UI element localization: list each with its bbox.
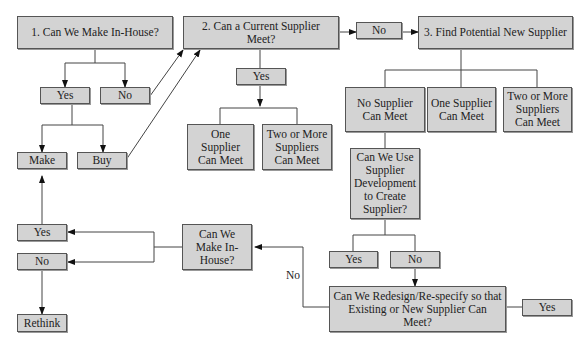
node-q2-yes: Yes (236, 68, 286, 85)
node-rethink: Rethink (17, 314, 67, 332)
node-supplier-development: Can We Use Supplier Development to Creat… (350, 148, 420, 219)
node-q3-no-supplier: No Supplier Can Meet (345, 87, 425, 132)
node-q3-two-suppliers: Two or More Suppliers Can Meet (503, 87, 572, 132)
node-q2-two-suppliers: Two or More Suppliers Can Meet (262, 124, 332, 170)
node-redesign-yes: Yes (522, 299, 572, 316)
node-redesign-respecify: Can We Redesign/Re-specify so that Exist… (329, 286, 506, 332)
node-q1-no: No (100, 87, 150, 104)
node-make2-yes: Yes (17, 224, 67, 241)
node-dev-yes: Yes (329, 251, 378, 268)
node-q2-no: No (356, 22, 402, 39)
node-q3-find-new-supplier: 3. Find Potential New Supplier (418, 16, 573, 49)
node-q3-one-supplier: One Supplier Can Meet (427, 87, 496, 132)
node-q2-one-supplier: One Supplier Can Meet (187, 124, 254, 170)
node-buy: Buy (77, 152, 127, 169)
node-make2-no: No (17, 253, 67, 270)
node-q2-current-supplier: 2. Can a Current Supplier Meet? (183, 16, 339, 49)
edge-label-no: No (286, 269, 300, 281)
node-make: Make (17, 152, 67, 169)
node-q1-yes: Yes (40, 87, 90, 104)
node-q1-make-in-house: 1. Can We Make In-House? (17, 16, 173, 49)
node-make-in-house-2: Can We Make In-House? (182, 224, 252, 270)
node-dev-no: No (390, 251, 440, 268)
